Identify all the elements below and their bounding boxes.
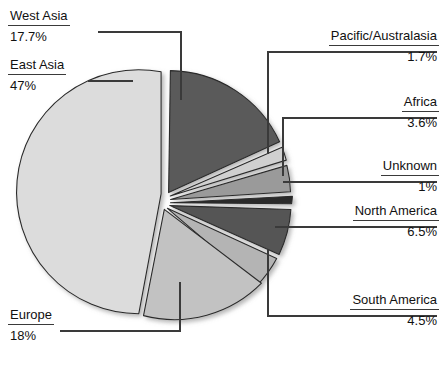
callout-pacific-australasia: Pacific/Australasia 1.7% [329,28,439,65]
callout-north-america: North America 6.5% [353,203,439,240]
callout-category-africa: Africa [402,94,439,112]
callout-europe: Europe 18% [8,307,54,344]
callout-percent-europe: 18% [8,325,54,343]
callout-category-south-america: South America [350,292,439,310]
callout-percent-unknown: 1% [381,176,439,194]
callout-south-america: South America 4.5% [350,292,439,329]
callout-percent-south-america: 4.5% [350,310,439,328]
pie-slice-east-asia [17,70,162,314]
callout-category-unknown: Unknown [381,158,439,176]
callout-category-north-america: North America [353,203,439,221]
callout-percent-pacific-australasia: 1.7% [329,46,439,64]
callout-west-asia: West Asia 17.7% [8,8,70,45]
callout-africa: Africa 3.6% [402,94,439,131]
callout-unknown: Unknown 1% [381,158,439,195]
callout-east-asia: East Asia 47% [8,57,66,94]
callout-percent-west-asia: 17.7% [8,26,70,44]
callout-category-west-asia: West Asia [8,8,70,26]
callout-category-europe: Europe [8,307,54,325]
callout-percent-north-america: 6.5% [353,221,439,239]
callout-category-east-asia: East Asia [8,57,66,75]
callout-category-pacific-australasia: Pacific/Australasia [329,28,439,46]
pie-chart-figure: West Asia 17.7% East Asia 47% Europe 18%… [0,0,447,365]
callout-percent-africa: 3.6% [402,112,439,130]
callout-percent-east-asia: 47% [8,75,66,93]
